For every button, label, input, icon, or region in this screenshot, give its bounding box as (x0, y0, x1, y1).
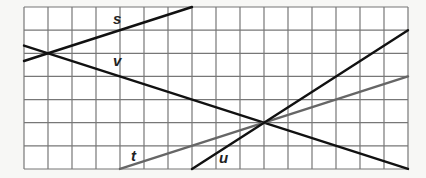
label-u: u (219, 149, 228, 166)
line-grid-diagram: s v t u (0, 0, 426, 178)
label-s: s (113, 10, 121, 27)
